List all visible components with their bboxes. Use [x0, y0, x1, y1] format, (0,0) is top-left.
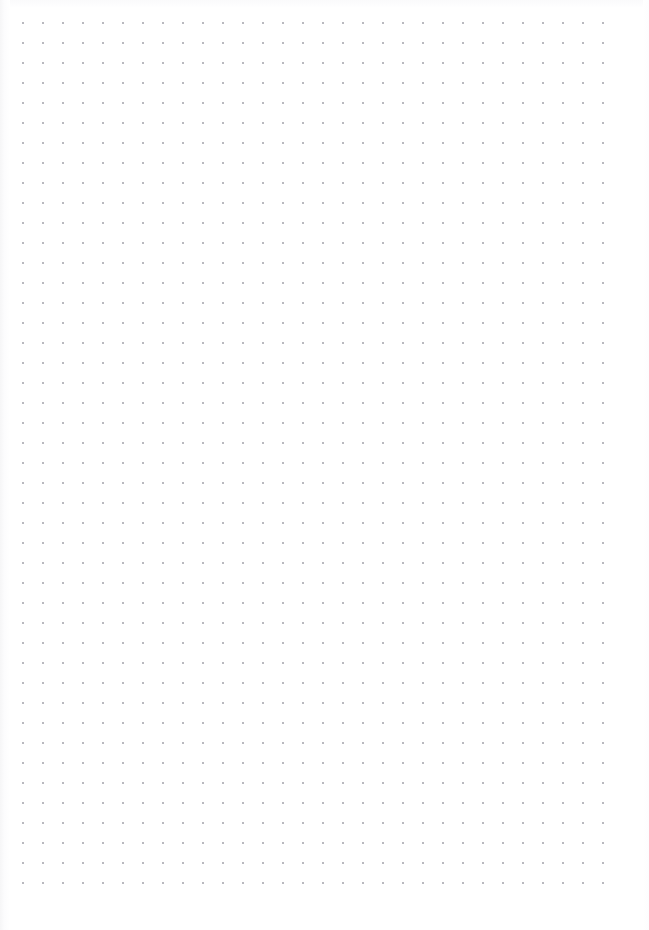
dot-grid-page	[0, 0, 649, 930]
paper-edge-top	[0, 0, 649, 8]
dot-grid	[13, 13, 613, 893]
page-canvas	[0, 0, 649, 930]
paper-edge-left	[0, 0, 10, 930]
paper-edge-right	[643, 0, 649, 930]
